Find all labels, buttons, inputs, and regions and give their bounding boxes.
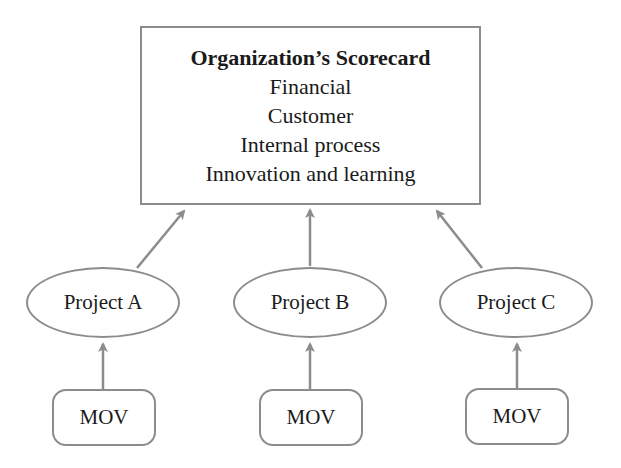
- mov-a-node: MOV: [52, 389, 156, 446]
- project-c-label: Project C: [477, 290, 556, 315]
- scorecard-item-innovation-learning: Innovation and learning: [205, 159, 415, 188]
- mov-c-label: MOV: [492, 404, 541, 429]
- mov-b-label: MOV: [286, 405, 335, 430]
- project-a-label: Project A: [64, 290, 143, 315]
- arrow-project-c-to-scorecard: [437, 211, 482, 268]
- scorecard-box: Organization’s Scorecard Financial Custo…: [140, 26, 481, 205]
- mov-a-label: MOV: [79, 405, 128, 430]
- mov-c-node: MOV: [465, 388, 569, 445]
- scorecard-title: Organization’s Scorecard: [190, 43, 430, 72]
- project-b-node: Project B: [233, 267, 387, 338]
- arrow-project-a-to-scorecard: [137, 211, 184, 268]
- scorecard-item-internal-process: Internal process: [241, 130, 381, 159]
- scorecard-item-customer: Customer: [268, 101, 354, 130]
- project-c-node: Project C: [439, 267, 593, 338]
- project-a-node: Project A: [26, 267, 180, 338]
- project-b-label: Project B: [271, 290, 350, 315]
- mov-b-node: MOV: [259, 389, 363, 446]
- scorecard-item-financial: Financial: [270, 72, 352, 101]
